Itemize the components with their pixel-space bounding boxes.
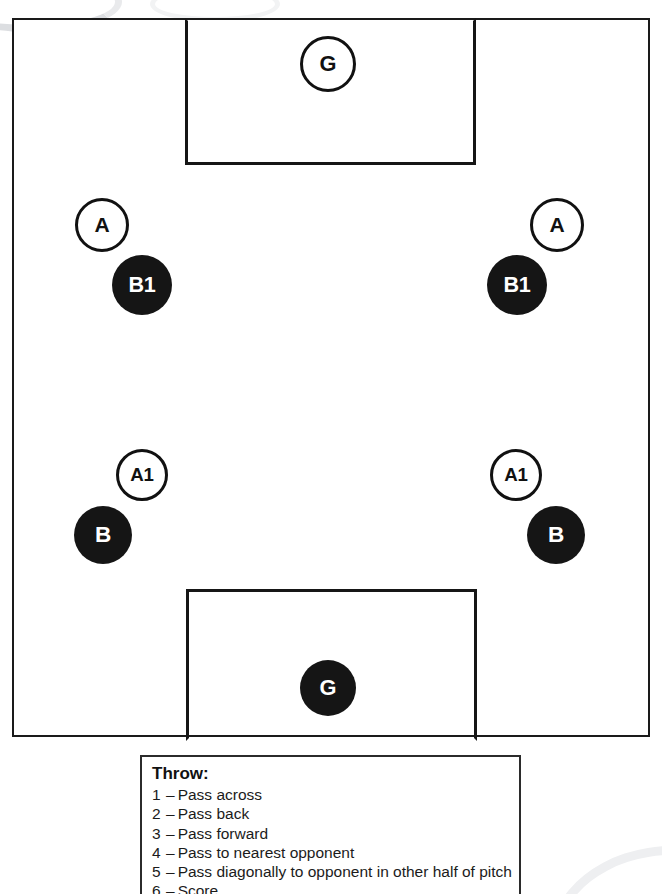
player-token-defender-b1-right: B1: [487, 255, 547, 315]
legend-item-number: 3: [152, 824, 163, 843]
player-token-goalkeeper-bottom: G: [300, 660, 356, 716]
player-token-attacker-a1-left: A1: [116, 449, 168, 501]
player-token-defender-left: B: [74, 506, 132, 564]
player-token-label: A: [550, 213, 565, 237]
legend-item: 6–Score: [152, 881, 519, 894]
player-token-label: G: [320, 51, 337, 77]
legend-item-number: 5: [152, 862, 163, 881]
player-token-label: B: [95, 522, 111, 548]
legend-item-text: Pass across: [178, 786, 262, 803]
player-token-label: G: [320, 675, 337, 701]
player-token-label: A: [95, 213, 110, 237]
legend-item: 1–Pass across: [152, 785, 519, 804]
legend-item-number: 1: [152, 785, 163, 804]
legend-box: Throw: 1–Pass across2–Pass back3–Pass fo…: [140, 755, 521, 894]
legend-item-number: 2: [152, 804, 163, 823]
background-arc-bottom-right: [548, 846, 662, 894]
legend-item: 3–Pass forward: [152, 824, 519, 843]
player-token-label: B1: [128, 272, 155, 298]
player-token-label: B: [548, 522, 564, 548]
legend-title: Throw:: [152, 763, 519, 784]
player-token-attacker-a1-right: A1: [490, 449, 542, 501]
legend-item-text: Pass forward: [178, 825, 268, 842]
player-token-attacker-left: A: [75, 198, 129, 252]
legend-item: 5–Pass diagonally to opponent in other h…: [152, 862, 519, 881]
legend-item-dash: –: [163, 786, 178, 803]
pitch-outline: [12, 18, 650, 737]
player-token-label: B1: [503, 272, 530, 298]
legend-item-text: Score: [178, 882, 219, 894]
legend-item-dash: –: [163, 805, 178, 822]
legend-item: 4–Pass to nearest opponent: [152, 843, 519, 862]
legend-item-dash: –: [163, 825, 178, 842]
player-token-defender-right: B: [527, 506, 585, 564]
legend-item-text: Pass to nearest opponent: [178, 844, 355, 861]
legend-item: 2–Pass back: [152, 804, 519, 823]
legend-item-number: 6: [152, 881, 163, 894]
player-token-attacker-right: A: [530, 198, 584, 252]
legend-item-dash: –: [163, 882, 178, 894]
player-token-defender-b1-left: B1: [112, 255, 172, 315]
legend-item-dash: –: [163, 863, 178, 880]
legend-item-number: 4: [152, 843, 163, 862]
legend-rows: 1–Pass across2–Pass back3–Pass forward4–…: [152, 785, 519, 894]
legend-item-text: Pass back: [178, 805, 250, 822]
player-token-label: A1: [130, 464, 154, 486]
legend-item-text: Pass diagonally to opponent in other hal…: [178, 863, 512, 880]
player-token-label: A1: [504, 464, 528, 486]
legend-item-dash: –: [163, 844, 178, 861]
player-token-goalkeeper-top: G: [300, 36, 356, 92]
